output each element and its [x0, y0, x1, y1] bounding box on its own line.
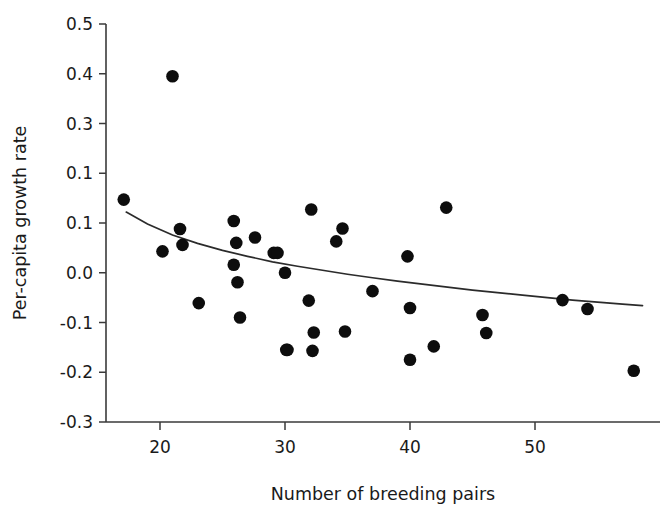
y-tick-label: 0.4 — [66, 64, 93, 84]
y-tick-label: 0.5 — [66, 14, 93, 34]
data-point — [480, 327, 493, 340]
y-axis-ticks — [99, 24, 106, 422]
data-point — [404, 354, 417, 367]
y-tick-label: 0.0 — [66, 263, 93, 283]
data-point — [306, 345, 319, 358]
chart-canvas: 0.50.40.30.10.10.0-0.1-0.2-0.3 20304050 … — [0, 0, 664, 510]
scatter-plot-figure: 0.50.40.30.10.10.0-0.1-0.2-0.3 20304050 … — [0, 0, 664, 510]
data-point — [440, 201, 453, 214]
x-tick-label: 50 — [524, 437, 546, 457]
data-point — [234, 311, 247, 324]
x-tick-label: 30 — [274, 437, 296, 457]
y-axis-tick-labels: 0.50.40.30.10.10.0-0.1-0.2-0.3 — [60, 14, 93, 432]
y-tick-label: -0.1 — [60, 313, 93, 333]
data-point — [336, 222, 349, 235]
data-point — [176, 239, 189, 252]
data-point — [156, 245, 169, 258]
data-point — [302, 294, 315, 307]
y-tick-label: -0.2 — [60, 362, 93, 382]
x-tick-label: 20 — [149, 437, 171, 457]
data-point — [404, 302, 417, 315]
y-tick-label: -0.3 — [60, 412, 93, 432]
data-point — [230, 237, 243, 250]
data-point — [366, 285, 379, 298]
data-point — [401, 250, 414, 263]
x-axis: 20304050 — [106, 422, 660, 457]
data-point — [192, 297, 205, 310]
y-tick-label: 0.3 — [66, 114, 93, 134]
x-tick-label: 40 — [399, 437, 421, 457]
y-tick-label: 0.1 — [66, 213, 93, 233]
data-point — [174, 223, 187, 236]
x-axis-ticks — [160, 422, 535, 430]
data-point — [249, 231, 262, 244]
data-point — [330, 235, 343, 248]
data-point — [231, 276, 244, 289]
data-point — [427, 340, 440, 353]
data-point — [227, 258, 240, 271]
data-points-group — [117, 70, 640, 377]
y-axis-title: Per-capita growth rate — [10, 126, 30, 321]
data-point — [556, 294, 569, 307]
data-point — [305, 203, 318, 216]
data-point — [581, 303, 594, 316]
y-axis: 0.50.40.30.10.10.0-0.1-0.2-0.3 — [60, 14, 106, 432]
data-point — [281, 344, 294, 357]
data-point — [279, 266, 292, 279]
data-point — [271, 247, 284, 260]
data-point — [339, 325, 352, 338]
data-point — [627, 364, 640, 377]
x-axis-tick-labels: 20304050 — [149, 437, 546, 457]
y-tick-label: 0.1 — [66, 163, 93, 183]
data-point — [307, 326, 320, 339]
x-axis-title: Number of breeding pairs — [271, 484, 495, 504]
data-point — [227, 215, 240, 228]
data-point — [476, 309, 489, 322]
data-point — [166, 70, 179, 83]
data-point — [117, 193, 130, 206]
trend-line-curve — [126, 212, 642, 306]
